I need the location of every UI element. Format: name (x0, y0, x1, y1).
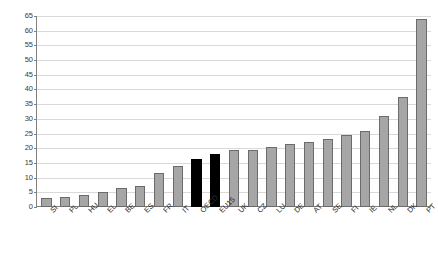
y-tick-label: 5 (9, 188, 33, 196)
bar-slot (210, 16, 220, 207)
bar-slot (116, 16, 126, 207)
bar-slot (191, 16, 201, 207)
bar-slot (360, 16, 370, 207)
bar-chart: 05101520253035404550556065 SIPLHUELBEESF… (0, 0, 438, 263)
bar-at (304, 142, 314, 207)
x-tick-label-oecd: OECD (199, 209, 205, 215)
bar-slot (229, 16, 239, 207)
x-tick-label-el: EL (106, 209, 112, 215)
x-tick-label-fi: FI (350, 209, 356, 215)
bar-oecd (191, 159, 201, 207)
x-tick-label-uk: UK (237, 209, 243, 215)
x-tick-label-fr: FR (162, 209, 168, 215)
x-tick-label-es: ES (143, 209, 149, 215)
y-tick-label: 60 (9, 27, 33, 35)
plot-area: 05101520253035404550556065 (36, 16, 430, 207)
bar-slot (98, 16, 108, 207)
x-axis-tick-labels: SIPLHUELBEESFRITOECDEU15UKCZLUDEATSEFIIE… (36, 209, 430, 263)
x-tick-label-be: BE (124, 209, 130, 215)
bar-se (323, 139, 333, 207)
bar-slot (266, 16, 276, 207)
bar-slot (173, 16, 183, 207)
bar-slot (341, 16, 351, 207)
bar-pt (416, 19, 426, 207)
y-tick-label: 40 (9, 85, 33, 93)
bar-nl (379, 116, 389, 207)
y-tick-label: 65 (9, 12, 33, 20)
bar-slot (323, 16, 333, 207)
y-tick-label: 55 (9, 41, 33, 49)
y-tick-mark (34, 207, 37, 208)
bar-slot (41, 16, 51, 207)
x-tick-label-ie: IE (368, 209, 374, 215)
bar-slot (379, 16, 389, 207)
bar-slot (398, 16, 408, 207)
bar-cz (248, 150, 258, 207)
bar-es (135, 186, 145, 207)
bar-series (37, 16, 431, 207)
x-tick-label-pt: PT (425, 209, 431, 215)
x-tick-label-hu: HU (87, 209, 93, 215)
bar-slot (304, 16, 314, 207)
x-tick-label-si: SI (49, 209, 55, 215)
bar-it (173, 166, 183, 207)
y-tick-label: 0 (9, 203, 33, 211)
y-tick-label: 10 (9, 174, 33, 182)
y-tick-label: 25 (9, 130, 33, 138)
bar-dk (398, 97, 408, 207)
x-tick-label-nl: NL (387, 209, 393, 215)
y-tick-label: 30 (9, 115, 33, 123)
bar-slot (285, 16, 295, 207)
bar-slot (135, 16, 145, 207)
y-tick-label: 45 (9, 71, 33, 79)
x-tick-label-dk: DK (406, 209, 412, 215)
bar-fr (154, 173, 164, 207)
bar-slot (416, 16, 426, 207)
x-tick-label-it: IT (181, 209, 187, 215)
bar-be (116, 188, 126, 207)
y-tick-label: 20 (9, 144, 33, 152)
bar-de (285, 144, 295, 207)
y-tick-label: 15 (9, 159, 33, 167)
x-tick-label-se: SE (331, 209, 337, 215)
x-tick-label-cz: CZ (256, 209, 262, 215)
bar-slot (60, 16, 70, 207)
x-tick-label-de: DE (293, 209, 299, 215)
x-tick-label-eu15: EU15 (218, 209, 224, 215)
bar-slot (248, 16, 258, 207)
bar-ie (360, 131, 370, 207)
bar-slot (79, 16, 89, 207)
x-tick-label-pl: PL (68, 209, 74, 215)
x-tick-label-at: AT (312, 209, 318, 215)
bar-fi (341, 135, 351, 207)
y-tick-label: 35 (9, 100, 33, 108)
y-tick-label: 50 (9, 56, 33, 64)
bar-slot (154, 16, 164, 207)
x-tick-label-lu: LU (275, 209, 281, 215)
bar-lu (266, 147, 276, 207)
